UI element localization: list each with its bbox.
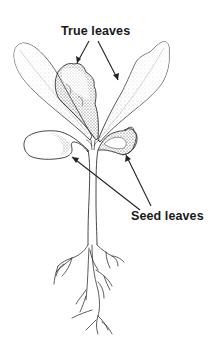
stem: [86, 140, 100, 245]
arrow-seed-leaves-left: [72, 157, 140, 210]
true-leaves-label: True leaves: [61, 24, 130, 38]
true-leaf-center: [55, 63, 98, 140]
seed-leaves-label: Seed leaves: [131, 209, 204, 223]
seed-leaf-left: [24, 131, 88, 160]
arrow-true-leaves-left: [76, 41, 89, 63]
arrow-true-leaves-right: [98, 41, 119, 80]
roots: [54, 245, 124, 334]
true-leaf-right: [98, 42, 169, 142]
seedling-illustration: [0, 0, 213, 356]
arrow-seed-leaves-right: [125, 155, 151, 206]
seedling-diagram: True leaves Seed leaves: [0, 0, 213, 356]
